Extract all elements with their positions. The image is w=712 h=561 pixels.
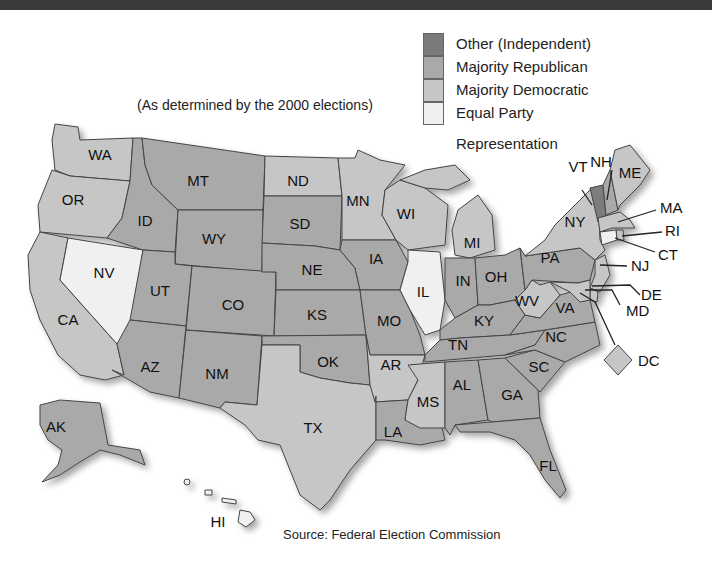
state-DC[interactable] (604, 345, 632, 375)
svg-text:SD: SD (290, 215, 311, 232)
svg-text:KY: KY (474, 312, 494, 329)
svg-text:MT: MT (187, 172, 209, 189)
state-CT[interactable] (600, 230, 617, 245)
svg-text:MN: MN (346, 192, 369, 209)
svg-text:CT: CT (658, 246, 678, 263)
svg-text:DE: DE (641, 286, 662, 303)
svg-text:OK: OK (317, 353, 339, 370)
svg-text:MI: MI (464, 234, 481, 251)
state-HI-islands[interactable] (205, 490, 212, 495)
svg-text:IN: IN (456, 272, 471, 289)
svg-text:TN: TN (448, 336, 468, 353)
svg-text:ND: ND (287, 172, 309, 189)
svg-text:NV: NV (94, 264, 115, 281)
svg-text:SC: SC (529, 358, 550, 375)
us-map: WA OR CA NV ID MT WY UT CO AZ NM ND SD N… (0, 0, 712, 561)
source-note: Source: Federal Election Commission (283, 527, 500, 542)
svg-text:MD: MD (626, 302, 649, 319)
svg-text:DC: DC (638, 352, 660, 369)
svg-text:NJ: NJ (631, 257, 649, 274)
svg-text:NY: NY (565, 213, 586, 230)
svg-text:FL: FL (539, 457, 557, 474)
svg-text:GA: GA (501, 386, 523, 403)
svg-text:VT: VT (568, 158, 587, 175)
svg-text:ME: ME (619, 164, 642, 181)
state-HI-islands[interactable] (222, 498, 236, 504)
state-HI[interactable] (238, 510, 255, 527)
svg-text:NC: NC (545, 328, 567, 345)
svg-text:KS: KS (307, 306, 327, 323)
svg-text:RI: RI (665, 222, 680, 239)
svg-text:OR: OR (62, 191, 85, 208)
svg-text:AK: AK (46, 418, 66, 435)
svg-text:WY: WY (202, 230, 226, 247)
svg-text:WA: WA (88, 146, 112, 163)
svg-text:NM: NM (205, 365, 228, 382)
svg-text:HI: HI (211, 513, 226, 530)
svg-text:MA: MA (660, 199, 683, 216)
state-HI-islands[interactable] (184, 479, 190, 485)
svg-text:WV: WV (515, 292, 539, 309)
svg-text:ID: ID (138, 212, 153, 229)
svg-text:VA: VA (556, 299, 575, 316)
state-AK[interactable] (40, 400, 145, 482)
svg-text:TX: TX (303, 419, 322, 436)
svg-text:MO: MO (377, 312, 401, 329)
svg-text:AZ: AZ (140, 358, 159, 375)
svg-text:MS: MS (417, 393, 440, 410)
svg-text:IL: IL (417, 283, 430, 300)
svg-text:CA: CA (58, 311, 79, 328)
svg-text:AR: AR (381, 356, 402, 373)
svg-text:LA: LA (384, 423, 402, 440)
svg-text:IA: IA (369, 250, 383, 267)
svg-text:NE: NE (302, 261, 323, 278)
svg-text:AL: AL (453, 376, 471, 393)
svg-text:UT: UT (150, 282, 170, 299)
svg-text:NH: NH (590, 153, 612, 170)
svg-text:PA: PA (541, 249, 560, 266)
svg-text:OH: OH (485, 268, 508, 285)
svg-text:WI: WI (397, 205, 415, 222)
svg-text:CO: CO (222, 296, 245, 313)
